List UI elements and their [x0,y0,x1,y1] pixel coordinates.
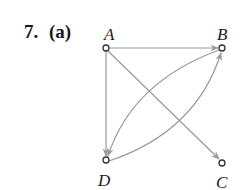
edge-a-c [108,51,219,159]
edge-b-d [108,50,219,156]
node-a [103,45,109,51]
node-d [103,157,109,163]
directed-graph [0,0,240,190]
node-b [219,45,225,51]
node-c [219,160,225,166]
